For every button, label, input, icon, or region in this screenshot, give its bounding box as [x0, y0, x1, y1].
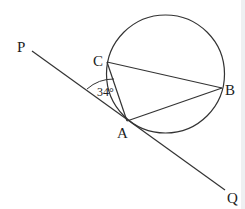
label-b: B — [225, 82, 235, 98]
label-c: C — [93, 53, 103, 69]
label-p: P — [17, 39, 25, 55]
angle-label: 34° — [97, 85, 114, 99]
chord-cb — [107, 62, 222, 88]
chord-ba — [127, 88, 222, 121]
tangent-circle-diagram: P C B A Q 34° — [0, 0, 245, 209]
right-edge-strip — [241, 0, 245, 209]
circle — [107, 15, 225, 133]
label-q: Q — [227, 190, 238, 206]
label-a: A — [117, 125, 128, 141]
